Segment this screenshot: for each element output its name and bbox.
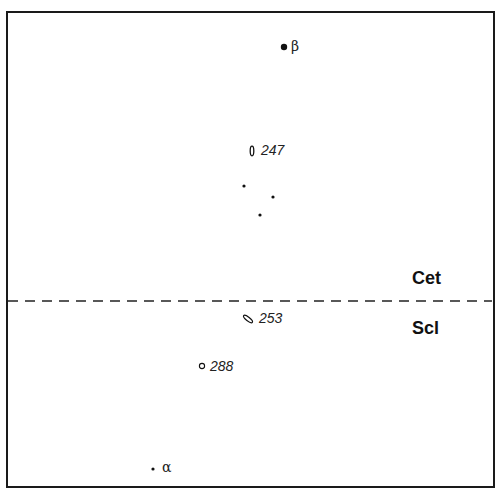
point-dot-1-marker: [242, 184, 245, 187]
point-247-marker: [250, 146, 254, 156]
point-253-label: 253: [259, 310, 282, 326]
point-288-label: 288: [210, 358, 233, 374]
beta-point-marker: [281, 44, 287, 50]
point-247-label: 247: [261, 142, 284, 158]
point-dot-3-marker: [258, 213, 261, 216]
alpha-point-marker: [151, 467, 154, 470]
zone-label-scl: Scl: [412, 318, 439, 339]
zone-label-cet: Cet: [412, 268, 441, 289]
alpha-label: α: [162, 459, 171, 475]
point-253-marker: [243, 314, 254, 324]
beta-label: β: [291, 38, 299, 54]
point-dot-2-marker: [271, 195, 274, 198]
plot-canvas: [0, 0, 498, 496]
point-288-marker: [199, 363, 204, 368]
